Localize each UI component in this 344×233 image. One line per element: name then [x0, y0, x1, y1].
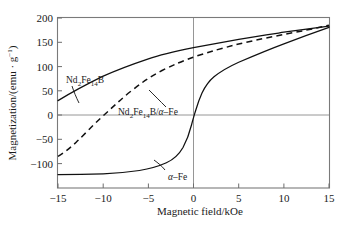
x-tick-label: 15 [324, 192, 336, 204]
leader-nd2fe14b-alpha-fe [149, 90, 166, 107]
y-tick-label: −100 [30, 158, 53, 170]
chart-svg: 200 150 100 50 0 −50 −100 −15 −10 −5 0 5… [0, 0, 344, 233]
y-tick-label: 100 [37, 61, 54, 73]
y-tick-labels: 200 150 100 50 0 −50 −100 [30, 12, 53, 170]
y-tick-label: 50 [42, 85, 54, 97]
x-tick-label: 5 [236, 192, 242, 204]
x-tick-labels: −15 −10 −5 0 5 10 15 [49, 192, 335, 204]
x-tick-label: −5 [143, 192, 155, 204]
chart-figure: 200 150 100 50 0 −50 −100 −15 −10 −5 0 5… [0, 0, 344, 233]
y-axis-title: Magnetization/(emu · g−1) [6, 45, 19, 160]
y-tick-label: 150 [37, 36, 54, 48]
y-tick-label: 200 [37, 12, 54, 24]
y-tick-label: −50 [36, 133, 54, 145]
x-tick-label: 10 [278, 192, 290, 204]
x-axis-ticks [58, 184, 329, 189]
x-tick-label: −15 [49, 192, 67, 204]
y-axis-ticks [58, 18, 63, 164]
x-axis-title: Magnetic field/kOe [157, 205, 243, 217]
y-tick-label: 0 [48, 109, 54, 121]
svg-text:Magnetization/(emu · g−1): Magnetization/(emu · g−1) [6, 45, 19, 160]
x-tick-label: 0 [191, 192, 197, 204]
x-tick-label: −10 [95, 192, 113, 204]
label-nd2fe14b-alpha-fe: Nd2Fe14B/α–Fe [118, 107, 178, 120]
y-axis-title-close: ) [6, 45, 19, 49]
y-axis-title-main: Magnetization/(emu · g [6, 56, 19, 160]
label-alpha-fe: α–Fe [168, 172, 187, 182]
